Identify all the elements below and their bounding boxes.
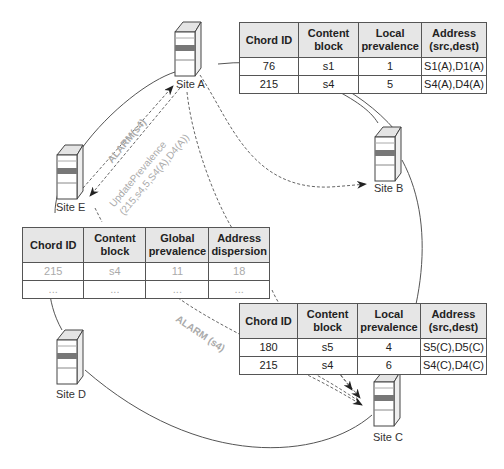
col-content-block: Content block <box>298 23 358 58</box>
server-icon-site-c[interactable] <box>372 370 402 428</box>
site-a-local-table: Chord ID Content block Local prevalence … <box>239 22 487 94</box>
table-header-row: Chord ID Content block Local prevalence … <box>240 23 487 58</box>
site-c-local-table: Chord ID Content block Local prevalence … <box>239 303 487 375</box>
site-e-label: Site E <box>56 201 85 213</box>
col-content-block: Content block <box>84 228 146 263</box>
server-icon-site-e[interactable] <box>55 143 85 201</box>
table-row: 215 s4 5 S4(A),D4(A) <box>240 76 487 94</box>
col-global-prevalence: Global prevalence <box>146 228 209 263</box>
server-icon-site-d[interactable] <box>55 328 85 386</box>
global-prevalence-table: Chord ID Content block Global prevalence… <box>22 227 270 299</box>
col-address: Address (src,dest) <box>420 304 486 339</box>
table-header-row: Chord ID Content block Global prevalence… <box>23 228 270 263</box>
col-chord-id: Chord ID <box>23 228 84 263</box>
site-d-label: Site D <box>56 388 86 400</box>
col-local-prevalence: Local prevalence <box>357 304 420 339</box>
table-row: 180 s5 4 S5(C),D5(C) <box>240 339 487 357</box>
col-address-dispersion: Address dispersion <box>209 228 270 263</box>
col-content-block: Content block <box>298 304 358 339</box>
table-header-row: Chord ID Content block Local prevalence … <box>240 304 487 339</box>
table-row: 76 s1 1 S1(A),D1(A) <box>240 58 487 76</box>
table-row: 215 s4 11 18 <box>23 263 270 281</box>
site-c-label: Site C <box>373 431 403 443</box>
arrow-a-to-global <box>187 92 232 228</box>
col-local-prevalence: Local prevalence <box>359 23 422 58</box>
col-address: Address (src,dest) <box>422 23 487 58</box>
col-chord-id: Chord ID <box>240 304 298 339</box>
site-a-label: Site A <box>176 78 205 90</box>
server-icon-site-a[interactable] <box>173 20 203 78</box>
server-icon-site-b[interactable] <box>373 125 403 183</box>
site-b-label: Site B <box>374 182 403 194</box>
table-row: 215 s4 6 S4(C),D4(C) <box>240 357 487 375</box>
table-row: ... ... ... ... <box>23 281 270 299</box>
col-chord-id: Chord ID <box>240 23 299 58</box>
